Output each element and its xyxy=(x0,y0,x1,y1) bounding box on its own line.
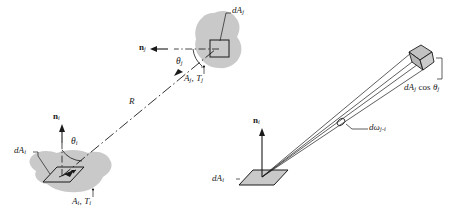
label-daj: dAj xyxy=(232,6,244,16)
label-theta-j: θj xyxy=(176,57,183,67)
beam-ray-outer-bottom xyxy=(262,69,424,177)
leader-solid-angle xyxy=(346,124,368,129)
beam-ray-mid-bottom xyxy=(262,62,421,177)
label-distance-r: R xyxy=(129,97,135,106)
figure-canvas xyxy=(0,0,472,222)
ray-arrowhead-upper xyxy=(174,69,183,76)
right-label-normal-i: ni xyxy=(253,116,260,126)
leader-daj-cos xyxy=(436,58,442,79)
right-differential-area-ai xyxy=(239,170,288,185)
leader-aj-tj-dot xyxy=(203,65,205,67)
label-dai: dAi xyxy=(14,146,26,156)
label-area-temp-j: Aj, Tj xyxy=(184,74,203,84)
solid-angle-cross-section xyxy=(336,117,347,127)
right-normal-i-arrowhead xyxy=(259,128,265,136)
beam-ray-mid-top xyxy=(262,59,416,177)
leader-ai-ti-dot xyxy=(92,188,94,190)
right-label-dai: dAi xyxy=(212,174,224,184)
leader-aj-tj xyxy=(201,67,204,74)
label-theta-i: θi xyxy=(71,137,78,147)
label-normal-i: ni xyxy=(53,112,60,122)
label-area-temp-i: Ai, Ti xyxy=(72,197,91,207)
normal-j-arrowhead xyxy=(150,46,157,52)
radiation-view-factor-figure: dAj nj θj Aj, Tj R ni θi dAi Ai, Ti dAj … xyxy=(0,0,472,222)
label-daj-cos-thetaj: dAj cos θj xyxy=(404,83,439,93)
surface-ai-blob xyxy=(29,150,111,192)
beam-ray-outer-top xyxy=(262,53,411,177)
normal-i-arrowhead xyxy=(59,124,65,132)
label-solid-angle: dωj-i xyxy=(369,123,386,133)
label-normal-j: nj xyxy=(139,43,146,53)
